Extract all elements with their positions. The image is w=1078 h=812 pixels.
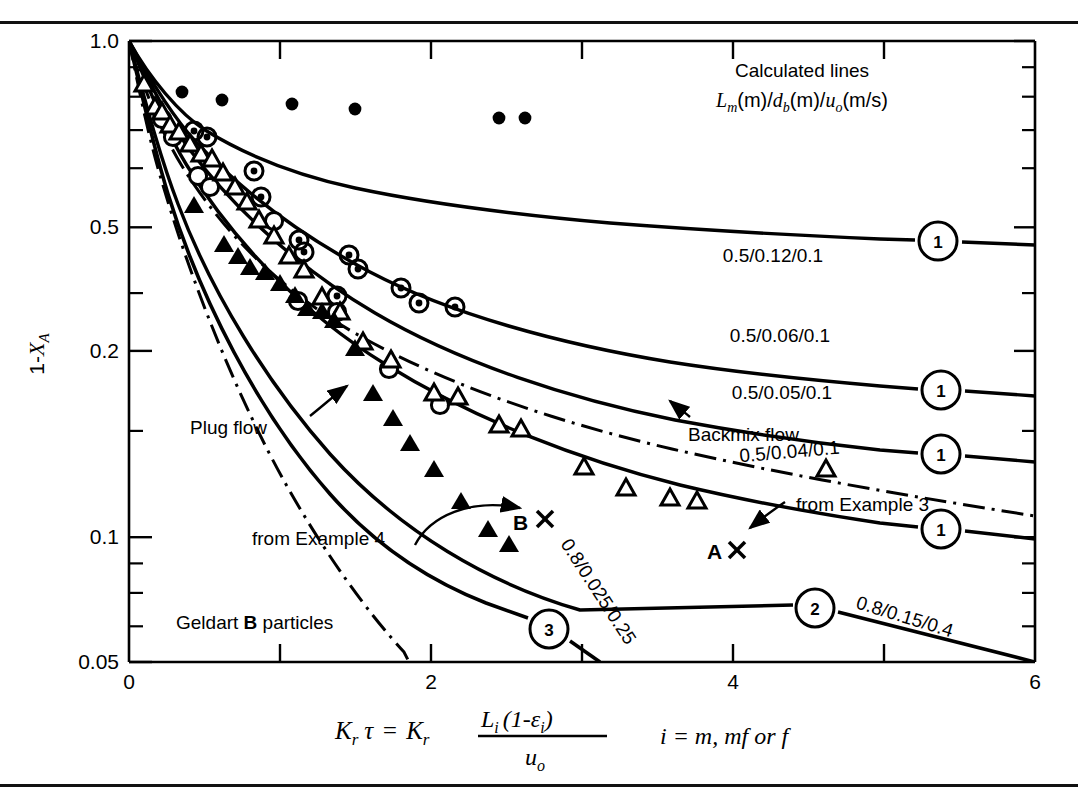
x-title-num-close: ) bbox=[543, 706, 553, 732]
x-title-Kr2-sub: r bbox=[423, 730, 430, 749]
x-tick-label-3: 6 bbox=[1029, 670, 1041, 693]
x-axis-title-note: i = m, mf or f bbox=[660, 723, 792, 749]
backmix-flow-leader bbox=[670, 401, 690, 417]
badge-curve-6: 2 bbox=[796, 589, 834, 627]
y-tick-labels: 1.0 0.5 0.2 0.1 0.05 bbox=[78, 29, 119, 673]
badge-curve-2-label: 1 bbox=[936, 382, 945, 401]
badge-curve-3: 1 bbox=[922, 435, 960, 473]
y-tick-label-3: 0.1 bbox=[90, 525, 119, 548]
badge-curve-3-label: 1 bbox=[936, 446, 945, 465]
curve-label-0-5-0-06-0-1: 0.5/0.06/0.1 bbox=[730, 325, 830, 346]
x-title-u-sub: o bbox=[537, 757, 545, 774]
y-axis-title-prefix: 1- bbox=[25, 356, 48, 375]
data-filled-triangles bbox=[184, 196, 519, 552]
x-title-num-rest: (1-ε bbox=[503, 706, 541, 732]
marked-point-a bbox=[729, 542, 745, 558]
badge-curve-6-label: 2 bbox=[810, 600, 819, 619]
badge-curve-4: 1 bbox=[922, 510, 960, 548]
legend-L: L bbox=[715, 89, 727, 111]
x-title-u: u bbox=[525, 744, 537, 770]
x-title-Kr-sub: r bbox=[352, 730, 359, 749]
badge-curve-4-label: 1 bbox=[936, 521, 945, 540]
badge-curve-5-label: 3 bbox=[544, 621, 553, 640]
geldart-bold: B bbox=[244, 612, 258, 633]
x-tick-label-1: 2 bbox=[425, 670, 437, 693]
chart-figure: 1.0 0.5 0.2 0.1 0.05 0 2 4 6 1-XA bbox=[0, 24, 1078, 782]
chart-svg: 1.0 0.5 0.2 0.1 0.05 0 2 4 6 1-XA bbox=[0, 24, 1078, 782]
curve-0.5-0.06-0.1-tail bbox=[965, 391, 1035, 396]
curve-0.5-0.12-0.1-tail bbox=[962, 242, 1035, 245]
x-title-eq: = bbox=[381, 717, 398, 744]
x-axis-title: Krτ=Kr Li(1-εi) uo i = m, mf or f bbox=[334, 706, 792, 774]
legend-mid2: (m)/ bbox=[790, 89, 826, 111]
x-title-tau: τ bbox=[364, 717, 374, 744]
curve-label-0-5-0-12-0-1: 0.5/0.12/0.1 bbox=[723, 245, 823, 266]
x-title-L-sub: i bbox=[494, 719, 498, 736]
marked-point-b bbox=[537, 511, 553, 527]
curve-0.5-0.05-0.1-tail bbox=[965, 456, 1035, 462]
curve-label-0-5-0-05-0-1: 0.5/0.05/0.1 bbox=[732, 382, 832, 403]
annotation-from-example-4: from Example 4 bbox=[252, 528, 385, 549]
x-tick-labels: 0 2 4 6 bbox=[123, 670, 1041, 693]
y-axis-title-sub: A bbox=[36, 333, 52, 344]
data-dotted-circles bbox=[185, 122, 464, 316]
x-title-L: L bbox=[480, 706, 494, 732]
legend-header-line1: Calculated lines bbox=[735, 60, 869, 81]
y-axis-ticks bbox=[129, 41, 152, 662]
legend-d-sub: b bbox=[783, 100, 790, 115]
annotation-backmix-flow: Backmix flow bbox=[688, 424, 799, 445]
curve-0.8-0.15-0.4 bbox=[129, 41, 793, 610]
x-axis-title-denominator: uo bbox=[525, 744, 545, 774]
badge-curve-5: 3 bbox=[530, 610, 568, 648]
legend-mid1: (m)/ bbox=[737, 89, 773, 111]
geldart-post: particles bbox=[257, 612, 333, 633]
x-tick-label-2: 4 bbox=[727, 670, 739, 693]
point-a-label: A bbox=[707, 540, 722, 563]
legend-mid3: (m/s) bbox=[842, 89, 888, 111]
legend-L-sub: m bbox=[727, 100, 737, 115]
y-tick-label-1: 0.5 bbox=[90, 215, 119, 238]
x-tick-label-0: 0 bbox=[123, 670, 135, 693]
y-tick-label-0: 1.0 bbox=[90, 29, 119, 52]
badge-curve-1-label: 1 bbox=[933, 233, 942, 252]
data-filled-circles bbox=[143, 77, 532, 125]
y-tick-label-4: 0.05 bbox=[78, 650, 119, 673]
badge-curve-2: 1 bbox=[922, 371, 960, 409]
legend-header-line2: Lm(m)/db(m)/uo(m/s) bbox=[715, 89, 888, 115]
x-axis-title-numerator: Li(1-εi) bbox=[480, 706, 553, 736]
y-tick-label-2: 0.2 bbox=[90, 339, 119, 362]
curve-0.5-0.04-0.1-tail bbox=[965, 531, 1035, 539]
plug-flow-leader bbox=[310, 386, 347, 416]
x-title-Kr: K bbox=[334, 717, 353, 744]
badge-curve-1: 1 bbox=[919, 222, 957, 260]
annotation-from-example-3: from Example 3 bbox=[796, 494, 929, 515]
x-axis-title-lhs: Krτ=Kr bbox=[334, 717, 430, 749]
legend-u-sub: o bbox=[835, 100, 842, 115]
svg-text:1-XA: 1-XA bbox=[24, 333, 52, 375]
geldart-pre: Geldart bbox=[176, 612, 244, 633]
x-title-Kr2: K bbox=[405, 717, 424, 744]
legend-u: u bbox=[825, 89, 835, 111]
annotation-plug-flow: Plug flow bbox=[190, 417, 267, 438]
y-axis-title: 1-XA bbox=[24, 333, 52, 375]
curve-0.8-0.025-0.25-tail bbox=[570, 641, 600, 662]
annotation-geldart: Geldart B particles bbox=[176, 612, 333, 633]
curve-label-0-8-0-15-0-4: 0.8/0.15/0.4 bbox=[854, 592, 957, 642]
bottom-divider-rule bbox=[0, 784, 1078, 787]
figure-page: 1.0 0.5 0.2 0.1 0.05 0 2 4 6 1-XA bbox=[0, 0, 1078, 812]
point-b-label: B bbox=[513, 511, 528, 534]
from-example-3-leader bbox=[750, 502, 785, 528]
